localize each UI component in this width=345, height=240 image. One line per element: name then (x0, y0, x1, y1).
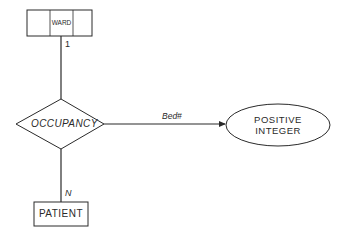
ward-entity-label: WARD (50, 19, 73, 26)
positive-integer-line1: POSITIVE (226, 114, 330, 125)
ward-cardinality-label: 1 (65, 39, 70, 49)
positive-integer-line2: INTEGER (226, 125, 330, 136)
positive-integer-label: POSITIVE INTEGER (226, 114, 330, 136)
patient-entity-label: PATIENT (34, 208, 88, 219)
occupancy-relationship-label: OCCUPANCY (31, 118, 98, 129)
bed-number-attribute-label: Bed# (162, 111, 182, 121)
patient-cardinality-label: N (65, 188, 72, 198)
